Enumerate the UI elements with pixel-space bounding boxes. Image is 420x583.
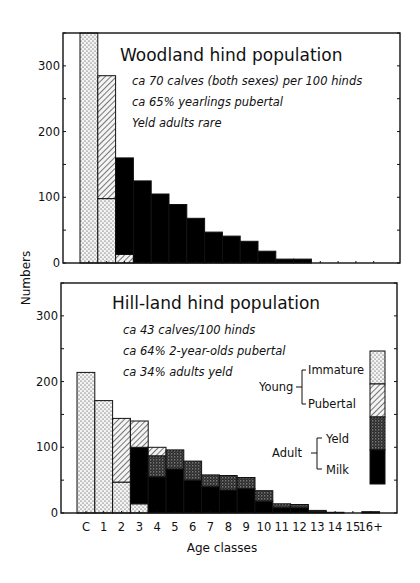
woodland-note-1: ca 70 calves (both sexes) per 100 hinds [132, 74, 362, 88]
legend-adult-bracket [311, 438, 322, 469]
segment-milk [151, 194, 169, 263]
x-tick-label: 5 [171, 520, 178, 534]
x-tick-label: 1 [100, 520, 107, 534]
figure: Numbers 0100200300 Woodland hind populat… [0, 0, 420, 583]
y-tick-label: 100 [38, 190, 60, 204]
bar-9 [240, 241, 258, 263]
segment-milk [202, 487, 220, 513]
x-tick-label: 16+ [359, 520, 383, 534]
segment-yeld [184, 461, 202, 480]
legend-swatch-immature [370, 351, 385, 384]
bar-3 [133, 181, 151, 263]
segment-yeld [166, 450, 184, 469]
x-tick-label: 7 [207, 520, 214, 534]
legend-swatch-milk [370, 450, 385, 484]
y-tick-label: 200 [36, 375, 58, 389]
segment-milk [240, 241, 258, 263]
legend-young-label: Young [258, 380, 293, 394]
x-tick-label: C [82, 520, 90, 534]
legend-young-bracket [296, 370, 306, 404]
bar-5 [169, 205, 187, 264]
x-tick-label: 9 [242, 520, 249, 534]
segment-milk [116, 158, 134, 255]
segment-milk [148, 477, 166, 513]
legend-pubertal-label: Pubertal [308, 397, 356, 411]
bar-1 [95, 401, 113, 513]
hillland-note-3: ca 34% adults yeld [123, 365, 233, 379]
bar-7 [205, 232, 223, 263]
bar-2 [113, 418, 131, 513]
y-axis-label: Numbers [19, 251, 33, 305]
segment-immature [95, 401, 113, 513]
x-tick-label: 2 [118, 520, 125, 534]
segment-yeld [255, 491, 273, 502]
x-tick-label: 12 [292, 520, 307, 534]
hillland-note-2: ca 64% 2-year-olds pubertal [123, 344, 286, 358]
segment-yeld [237, 478, 255, 489]
bar-6 [184, 461, 202, 513]
segment-yeld [273, 504, 291, 508]
segment-milk [205, 232, 223, 263]
bar-5 [166, 450, 184, 513]
y-tick-label: 0 [53, 256, 60, 270]
y-tick-label: 100 [36, 440, 58, 454]
bar-7 [202, 475, 220, 513]
bar-C [80, 33, 98, 263]
segment-milk [133, 181, 151, 263]
x-tick-label: 10 [257, 520, 272, 534]
hillland-note-1: ca 43 calves/100 hinds [123, 323, 255, 337]
hillland-title: Hill-land hind population [112, 293, 320, 313]
legend-adult-label: Adult [272, 446, 302, 460]
segment-immature [77, 372, 95, 513]
segment-yeld [291, 505, 309, 508]
y-tick-label: 0 [51, 506, 58, 520]
woodland-title: Woodland hind population [120, 45, 342, 65]
bar-1 [98, 76, 116, 263]
legend-swatch-pubertal [370, 384, 385, 417]
y-tick-label: 200 [38, 125, 60, 139]
segment-milk [187, 218, 205, 263]
bar-6 [187, 218, 205, 263]
legend-swatch-yeld [370, 417, 385, 450]
hillland-x-axis: C12345678910111213141516+ [82, 520, 383, 534]
bar-C [77, 372, 95, 513]
bar-3 [130, 421, 148, 513]
woodland-panel: 0100200300 Woodland hind population ca 7… [38, 33, 400, 270]
x-tick-label: 13 [310, 520, 325, 534]
bar-2 [116, 158, 134, 263]
x-tick-label: 8 [225, 520, 232, 534]
segment-milk [166, 469, 184, 513]
segment-milk [237, 489, 255, 513]
x-axis-label: Age classes [187, 541, 257, 555]
x-tick-label: 3 [136, 520, 143, 534]
segment-immature [98, 199, 116, 263]
hillland-panel: 0100200300 Hill-land hind population ca … [36, 283, 397, 555]
segment-immature [113, 482, 131, 513]
segment-milk [169, 205, 187, 264]
segment-milk [184, 480, 202, 513]
legend-milk-label: Milk [326, 463, 349, 477]
segment-pubertal [130, 421, 148, 447]
segment-milk [130, 447, 148, 504]
woodland-note-2: ca 65% yearlings pubertal [132, 95, 284, 109]
segment-yeld [202, 475, 220, 487]
bar-4 [151, 194, 169, 263]
x-tick-label: 11 [274, 520, 289, 534]
y-tick-label: 300 [36, 309, 58, 323]
segment-milk [219, 490, 237, 513]
bar-8 [222, 236, 240, 263]
legend: Young Immature Pubertal Adult Yeld Milk [258, 351, 385, 484]
segment-pubertal [148, 447, 166, 456]
segment-pubertal [113, 418, 131, 482]
y-tick-label: 300 [38, 59, 60, 73]
segment-pubertal [98, 76, 116, 199]
segment-yeld [219, 476, 237, 491]
segment-yeld [148, 456, 166, 477]
segment-immature [80, 33, 98, 263]
x-tick-label: 6 [189, 520, 196, 534]
woodland-note-3: Yeld adults rare [132, 116, 222, 130]
woodland-bars [80, 33, 311, 263]
segment-milk [222, 236, 240, 263]
legend-immature-label: Immature [308, 363, 364, 377]
bar-9 [237, 478, 255, 514]
